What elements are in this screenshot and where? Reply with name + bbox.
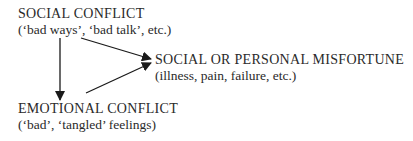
node-title: EMOTIONAL CONFLICT <box>18 101 178 117</box>
node-title: SOCIAL CONFLICT <box>18 6 171 22</box>
node-misfortune: SOCIAL OR PERSONAL MISFORTUNE (illness, … <box>155 52 404 84</box>
node-social-conflict: SOCIAL CONFLICT (‘bad ways’, ‘bad talk’,… <box>18 6 171 38</box>
node-title: SOCIAL OR PERSONAL MISFORTUNE <box>155 52 404 68</box>
arrow-emotional-to-misfortune <box>86 63 151 93</box>
arrow-social-to-misfortune <box>81 38 151 59</box>
node-subtitle: (illness, pain, failure, etc.) <box>155 68 404 84</box>
node-emotional-conflict: EMOTIONAL CONFLICT (‘bad’, ‘tangled’ fee… <box>18 101 178 133</box>
node-subtitle: (‘bad’, ‘tangled’ feelings) <box>18 117 178 133</box>
node-subtitle: (‘bad ways’, ‘bad talk’, etc.) <box>18 22 171 38</box>
